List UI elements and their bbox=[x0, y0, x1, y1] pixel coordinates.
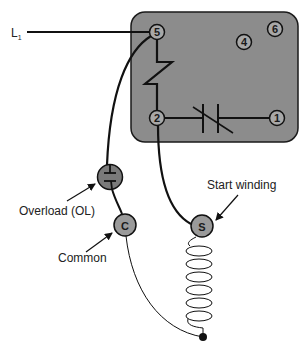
svg-text:1: 1 bbox=[274, 112, 280, 124]
terminal-1[interactable]: 1 bbox=[270, 111, 285, 126]
l1-label: L1 bbox=[11, 26, 22, 41]
terminal-2[interactable]: 2 bbox=[150, 111, 165, 126]
svg-text:5: 5 bbox=[154, 26, 160, 38]
junction-dot bbox=[199, 333, 207, 341]
start-terminal[interactable]: S bbox=[191, 215, 213, 237]
overload-label: Overload (OL) bbox=[19, 204, 95, 218]
start-winding-arrow bbox=[216, 195, 238, 220]
overload-component[interactable] bbox=[98, 165, 123, 190]
svg-text:S: S bbox=[198, 221, 205, 233]
terminal-5[interactable]: 5 bbox=[150, 25, 165, 40]
svg-text:C: C bbox=[121, 220, 129, 232]
terminal-6[interactable]: 6 bbox=[268, 22, 283, 37]
terminal-4[interactable]: 4 bbox=[237, 35, 252, 50]
common-arrow bbox=[86, 233, 112, 252]
svg-text:4: 4 bbox=[241, 36, 248, 48]
svg-text:6: 6 bbox=[272, 23, 278, 35]
common-terminal[interactable]: C bbox=[114, 214, 136, 236]
start-winding-coil bbox=[186, 237, 212, 337]
svg-text:2: 2 bbox=[154, 112, 160, 124]
start-winding-label: Start winding bbox=[207, 178, 276, 192]
overload-arrow bbox=[67, 184, 95, 201]
wire-overload-to-common bbox=[112, 189, 122, 214]
common-label: Common bbox=[58, 251, 107, 265]
wire-common-to-junction bbox=[126, 236, 203, 337]
wiring-diagram: L1 5 4 6 2 1 bbox=[0, 0, 304, 349]
